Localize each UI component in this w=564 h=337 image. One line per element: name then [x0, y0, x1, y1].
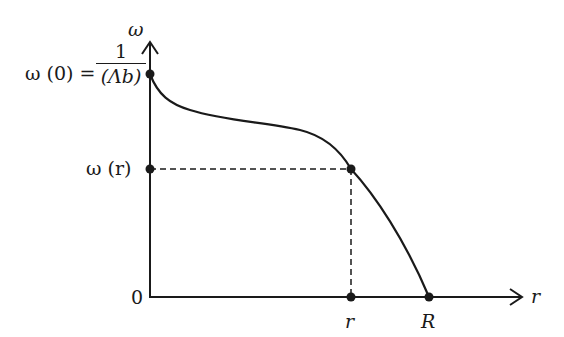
x-axis-label: r: [531, 287, 540, 306]
r-tick-label: r: [345, 312, 354, 331]
point-omega-r-curve: [347, 165, 356, 174]
omega0-fraction: 1 (Λb): [96, 40, 146, 87]
point-omega-r-axis: [146, 165, 155, 174]
point-r-axis: [347, 293, 356, 302]
omega0-label: ω (0) =: [25, 64, 95, 83]
omega-curve: [150, 74, 429, 297]
fraction-bar: [96, 63, 146, 64]
omega0-denominator: (Λb): [96, 65, 146, 87]
omega0-numerator: 1: [96, 40, 146, 62]
point-omega-0: [146, 70, 155, 79]
R-tick-label: R: [421, 312, 435, 331]
diagram-canvas: [0, 0, 564, 337]
omega-r-label: ω (r): [86, 159, 131, 178]
y-axis-label: ω: [128, 20, 144, 39]
origin-label: 0: [131, 288, 143, 307]
point-R-axis: [425, 293, 434, 302]
